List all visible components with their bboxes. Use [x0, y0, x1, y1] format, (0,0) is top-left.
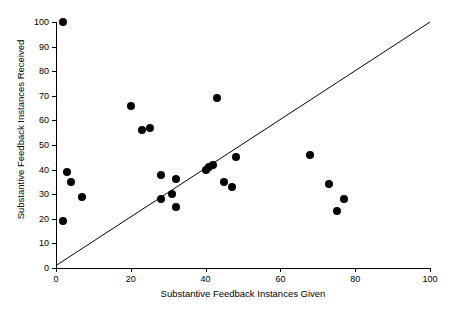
data-point [306, 151, 314, 159]
data-point [172, 203, 180, 211]
data-point [213, 94, 221, 102]
data-point [157, 195, 165, 203]
data-point [127, 102, 135, 110]
data-point [333, 207, 341, 215]
data-point [59, 18, 67, 26]
data-point [209, 161, 217, 169]
data-point [168, 190, 176, 198]
x-tick-label: 40 [191, 274, 221, 285]
data-point [67, 178, 75, 186]
x-tick-mark [206, 268, 207, 272]
data-point [228, 183, 236, 191]
x-tick-mark [56, 268, 57, 272]
x-tick-label: 60 [265, 274, 295, 285]
x-tick-label: 80 [340, 274, 370, 285]
data-point [157, 171, 165, 179]
data-point [340, 195, 348, 203]
x-axis-label: Substantive Feedback Instances Given [56, 288, 430, 299]
data-point [172, 175, 180, 183]
x-tick-mark [131, 268, 132, 272]
data-point [78, 193, 86, 201]
x-tick-label: 0 [41, 274, 71, 285]
scatter-plot-figure: 0102030405060708090100 020406080100 Subs… [0, 0, 453, 312]
x-tick-mark [355, 268, 356, 272]
data-point [220, 178, 228, 186]
data-point [138, 126, 146, 134]
data-point [325, 180, 333, 188]
plot-area [56, 22, 430, 268]
x-tick-mark [430, 268, 431, 272]
data-point [59, 217, 67, 225]
x-axis-line [56, 268, 430, 269]
x-tick-label: 20 [116, 274, 146, 285]
y-axis-label: Substantive Feedback Instances Received [15, 5, 26, 255]
x-tick-label: 100 [415, 274, 445, 285]
x-tick-mark [280, 268, 281, 272]
data-point [146, 124, 154, 132]
y-tick-label: 0 [18, 264, 49, 273]
data-point [63, 168, 71, 176]
data-point [232, 153, 240, 161]
